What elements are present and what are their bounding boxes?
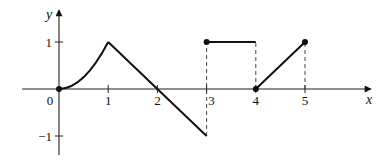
x-tick-label: 0 [47, 93, 54, 108]
function-segment [256, 42, 305, 89]
x-tick-label: 1 [105, 93, 112, 108]
x-tick-label: 2 [154, 93, 161, 108]
y-tick-label: −1 [38, 129, 52, 144]
closed-endpoint-dot [56, 86, 62, 92]
x-tick-label: 4 [253, 93, 260, 108]
y-tick-label: 1 [46, 35, 53, 50]
x-tick-label: 3 [208, 93, 215, 108]
closed-endpoint-dot [204, 39, 210, 45]
function-segment [59, 42, 108, 89]
y-axis-label: y [44, 7, 53, 22]
x-axis-label: x [365, 92, 373, 107]
piecewise-function-graph: 0123451−1 x y [0, 0, 389, 164]
x-tick-label: 5 [302, 93, 309, 108]
closed-endpoint-dot [253, 86, 259, 92]
closed-endpoint-dot [302, 39, 308, 45]
